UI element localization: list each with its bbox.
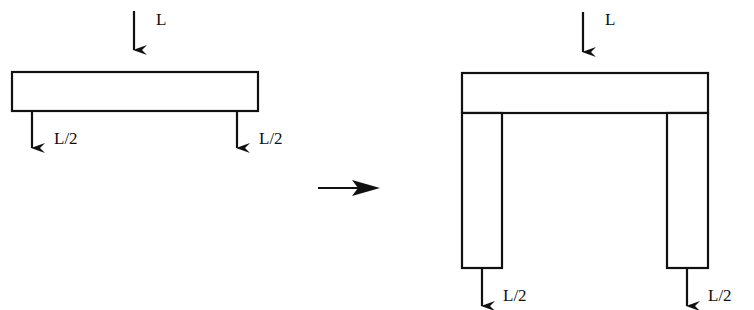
right-leg-label: L/2 (708, 286, 732, 305)
top-beam (462, 73, 708, 113)
load-label: L (605, 10, 615, 29)
transition-arrow-icon (318, 180, 380, 196)
left-leg (462, 113, 502, 268)
right-leg (667, 113, 708, 268)
simple-beam-figure: L L/2 L/2 (12, 10, 283, 148)
frame-figure: L L/2 L/2 (462, 10, 732, 306)
beam (12, 72, 258, 111)
load-distribution-diagram: L L/2 L/2 L L/2 L/2 (0, 0, 754, 310)
left-leg-label: L/2 (503, 286, 527, 305)
load-label: L (156, 10, 166, 29)
left-support-label: L/2 (54, 129, 78, 148)
right-support-label: L/2 (259, 129, 283, 148)
